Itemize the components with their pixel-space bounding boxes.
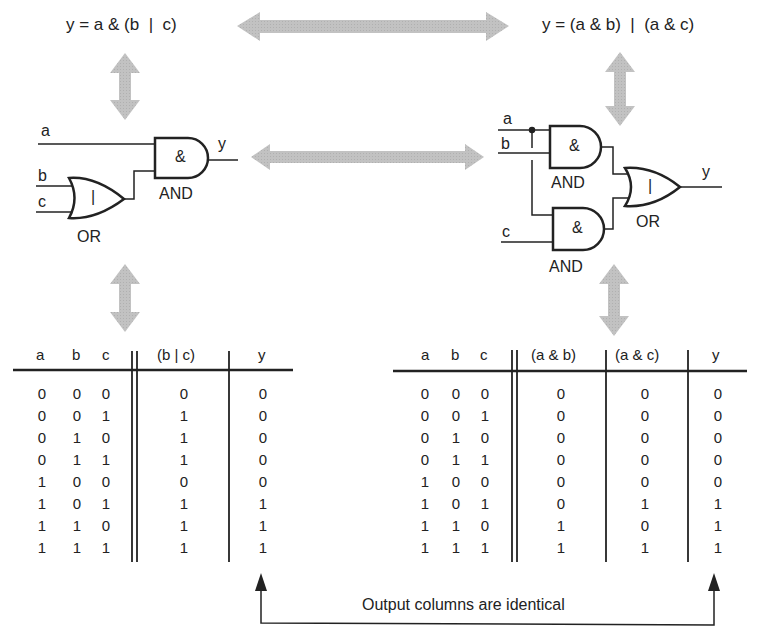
- table-cell: 1: [446, 517, 466, 534]
- table-cell: 0: [708, 429, 728, 446]
- table-cell: 0: [551, 451, 571, 468]
- table-cell: 0: [708, 473, 728, 490]
- table-cell: 0: [635, 517, 655, 534]
- table-cell: 1: [415, 539, 435, 556]
- table-cell: 0: [551, 407, 571, 424]
- table-cell: 1: [551, 539, 571, 556]
- table-header-a: a: [421, 346, 429, 363]
- truth-table-right: a b c (a & b) (a & c) y 0000000010000100…: [0, 0, 758, 600]
- table-cell: 0: [415, 385, 435, 402]
- identical-output-note: Output columns are identical: [362, 596, 565, 614]
- table-cell: 1: [475, 495, 495, 512]
- table-cell: 0: [551, 429, 571, 446]
- table-cell: 0: [415, 407, 435, 424]
- table-cell: 1: [446, 451, 466, 468]
- table-cell: 0: [635, 385, 655, 402]
- table-cell: 0: [708, 385, 728, 402]
- table-cell: 1: [415, 473, 435, 490]
- table-cell: 1: [475, 539, 495, 556]
- table-cell: 0: [635, 407, 655, 424]
- table-cell: 0: [475, 473, 495, 490]
- table-cell: 0: [475, 429, 495, 446]
- table-cell: 0: [635, 429, 655, 446]
- table-cell: 1: [635, 539, 655, 556]
- table-cell: 1: [475, 407, 495, 424]
- table-cell: 1: [551, 517, 571, 534]
- table-cell: 1: [708, 517, 728, 534]
- table-cell: 1: [635, 495, 655, 512]
- table-header-y: y: [712, 346, 720, 363]
- table-cell: 0: [475, 517, 495, 534]
- table-cell: 1: [708, 495, 728, 512]
- table-cell: 1: [446, 539, 466, 556]
- table-header-b: b: [451, 346, 459, 363]
- table-cell: 0: [415, 429, 435, 446]
- table-cell: 0: [551, 473, 571, 490]
- table-cell: 0: [446, 473, 466, 490]
- table-cell: 1: [446, 429, 466, 446]
- table-cell: 0: [635, 473, 655, 490]
- table-header-c: c: [480, 346, 488, 363]
- table-header-a-and-b: (a & b): [531, 346, 576, 363]
- table-cell: 0: [446, 385, 466, 402]
- table-cell: 1: [708, 539, 728, 556]
- table-cell: 1: [475, 451, 495, 468]
- table-cell: 1: [415, 495, 435, 512]
- table-cell: 0: [551, 385, 571, 402]
- table-cell: 0: [708, 407, 728, 424]
- table-cell: 0: [635, 451, 655, 468]
- table-cell: 0: [708, 451, 728, 468]
- table-cell: 0: [446, 495, 466, 512]
- table-cell: 0: [446, 407, 466, 424]
- table-cell: 0: [551, 495, 571, 512]
- table-cell: 1: [415, 517, 435, 534]
- table-cell: 0: [415, 451, 435, 468]
- table-header-a-and-c: (a & c): [615, 346, 659, 363]
- table-cell: 0: [475, 385, 495, 402]
